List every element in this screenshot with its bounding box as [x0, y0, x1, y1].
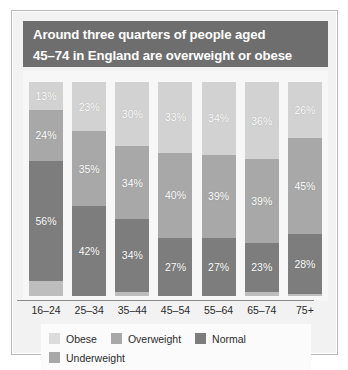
x-axis-label-65-74: 65–74	[245, 304, 279, 320]
bar-segment-underweight	[288, 294, 322, 296]
bar-segment-underweight	[29, 281, 63, 296]
stacked-bar-group: 13%24%56%23%35%42%30%34%34%33%40%27%34%3…	[23, 82, 328, 296]
bar-segment-obese: 26%	[288, 82, 322, 138]
bar-segment-obese: 30%	[115, 82, 149, 146]
x-axis-label-55-64: 55–64	[202, 304, 236, 320]
legend-label: Normal	[212, 333, 246, 345]
bar-segment-overweight: 45%	[288, 138, 322, 234]
bar-segment-value: 28%	[294, 258, 315, 270]
legend-swatch-overweight-icon	[111, 333, 122, 344]
bar-segment-obese: 33%	[158, 82, 192, 153]
bar-segment-normal: 27%	[158, 238, 192, 296]
bar-segment-value: 34%	[122, 177, 143, 189]
bar-segment-value: 56%	[35, 215, 56, 227]
bar-segment-underweight	[115, 292, 149, 296]
x-axis-label-16-24: 16–24	[29, 304, 63, 320]
x-axis-line	[17, 300, 314, 301]
legend-item-overweight[interactable]: Overweight	[111, 333, 181, 345]
legend-item-obese[interactable]: Obese	[49, 333, 97, 345]
legend-swatch-obese-icon	[49, 333, 60, 344]
bar-segment-value: 45%	[294, 180, 315, 192]
bar-segment-overweight: 39%	[245, 159, 279, 242]
x-axis-label-45-54: 45–54	[158, 304, 192, 320]
plot-area: 13%24%56%23%35%42%30%34%34%33%40%27%34%3…	[23, 71, 328, 301]
bar-segment-value: 40%	[165, 189, 186, 201]
bar-segment-value: 34%	[208, 112, 229, 124]
legend-item-underweight[interactable]: Underweight	[49, 352, 125, 364]
bar-segment-value: 34%	[122, 249, 143, 261]
bar-segment-value: 33%	[165, 111, 186, 123]
bar-segment-value: 39%	[208, 190, 229, 202]
bar-segment-value: 27%	[208, 261, 229, 273]
bar-segment-overweight: 24%	[29, 110, 63, 161]
bar-segment-value: 23%	[79, 101, 100, 113]
legend-row-primary: ObeseOverweightNormal	[49, 329, 305, 348]
legend-label: Obese	[66, 333, 97, 345]
bar-segment-value: 35%	[79, 163, 100, 175]
bar-segment-overweight: 40%	[158, 153, 192, 239]
bar-segment-normal: 56%	[29, 161, 63, 281]
stacked-bar-55-64[interactable]: 34%39%27%	[202, 82, 236, 296]
bar-segment-value: 13%	[35, 90, 56, 102]
x-axis-label-25-34: 25–34	[72, 304, 106, 320]
legend-item-normal[interactable]: Normal	[195, 333, 246, 345]
bar-segment-value: 24%	[35, 129, 56, 141]
bar-segment-value: 36%	[251, 115, 272, 127]
bar-segment-obese: 36%	[245, 82, 279, 159]
chart-title-line-2: 45–74 in England are overweight or obese	[33, 45, 318, 66]
stacked-bar-16-24[interactable]: 13%24%56%	[29, 82, 63, 296]
stacked-bar-45-54[interactable]: 33%40%27%	[158, 82, 192, 296]
legend-label: Underweight	[66, 352, 125, 364]
chart-title-line-1: Around three quarters of people aged	[33, 24, 318, 45]
stacked-bar-75+[interactable]: 26%45%28%	[288, 82, 322, 296]
legend-row-secondary: Underweight	[49, 348, 305, 367]
bar-segment-overweight: 34%	[115, 146, 149, 219]
bar-segment-value: 26%	[294, 104, 315, 116]
bar-segment-normal: 42%	[72, 206, 106, 296]
bar-segment-obese: 23%	[72, 82, 106, 131]
legend-swatch-underweight-icon	[49, 352, 60, 363]
bar-segment-underweight	[245, 292, 279, 296]
bar-segment-normal: 27%	[202, 238, 236, 296]
bar-segment-value: 27%	[165, 261, 186, 273]
bar-segment-value: 39%	[251, 195, 272, 207]
bar-segment-overweight: 35%	[72, 131, 106, 206]
bar-segment-value: 23%	[251, 261, 272, 273]
bar-segment-normal: 34%	[115, 219, 149, 292]
bar-segment-value: 42%	[79, 245, 100, 257]
bar-segment-overweight: 39%	[202, 155, 236, 238]
stacked-bar-25-34[interactable]: 23%35%42%	[72, 82, 106, 296]
stacked-bar-35-44[interactable]: 30%34%34%	[115, 82, 149, 296]
legend-label: Overweight	[128, 333, 181, 345]
x-axis-tick-labels: 16–2425–3435–4445–5455–6465–7475+	[23, 304, 328, 320]
stacked-bar-65-74[interactable]: 36%39%23%	[245, 82, 279, 296]
x-axis-label-75+: 75+	[288, 304, 322, 320]
figure-frame: Around three quarters of people aged 45–…	[11, 10, 338, 355]
legend-swatch-normal-icon	[195, 333, 206, 344]
bar-segment-value: 30%	[122, 108, 143, 120]
bar-segment-obese: 13%	[29, 82, 63, 110]
x-axis-label-35-44: 35–44	[115, 304, 149, 320]
chart-legend: ObeseOverweightNormal Underweight	[41, 324, 311, 370]
bar-segment-obese: 34%	[202, 82, 236, 155]
bar-segment-normal: 28%	[288, 234, 322, 294]
chart-title: Around three quarters of people aged 45–…	[23, 21, 328, 67]
bar-segment-normal: 23%	[245, 243, 279, 292]
